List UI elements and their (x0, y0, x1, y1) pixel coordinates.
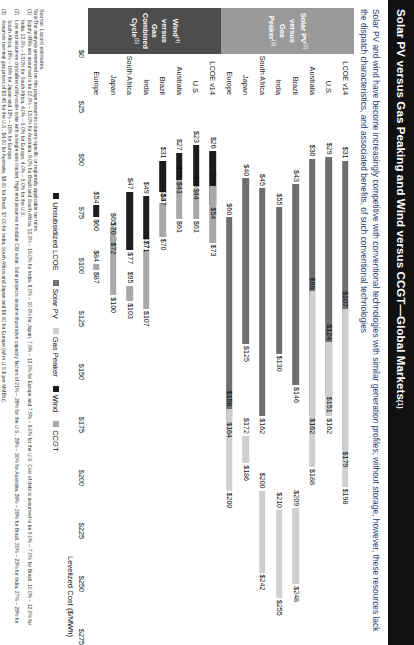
chart-row: Brazil$43$146$209$248 (287, 54, 304, 637)
legend-item: Solar PV (51, 280, 60, 319)
category-label: U.S. (324, 54, 333, 100)
chart-group: Wind(4)versusGas CombinedCycle(5)LCOE v1… (88, 8, 221, 637)
ccgt-bar (126, 286, 132, 302)
x-axis-tick: $200 (77, 470, 86, 486)
footnote-text: Low end assumes crystalline utility-scal… (7, 20, 20, 636)
gas-peaker-bar (292, 508, 298, 584)
value-label-low: $26 (209, 137, 217, 149)
chart-row: South Africa$47$77$95$103 (121, 54, 138, 637)
ccgt-bar (110, 227, 116, 295)
x-axis-tick: $100 (77, 258, 86, 274)
category-label: Japan (241, 54, 250, 100)
legend-item: Wind (51, 386, 60, 412)
wind-bar (93, 205, 99, 217)
value-label-low: $55 (275, 194, 283, 206)
value-label-low: $54 (92, 192, 100, 204)
value-label-conv-high: $73 (209, 245, 217, 257)
value-label-conv-low: $98 (308, 278, 316, 290)
x-axis-tick: $175 (77, 417, 86, 433)
value-label-conv-low: $200 (258, 473, 266, 489)
value-label-conv-low: $107 (341, 291, 349, 307)
value-label-conv-high: $242 (258, 575, 266, 591)
value-label-high: $44 (192, 188, 200, 200)
x-axis-tick: $275 (77, 629, 86, 645)
chart-row: LCOE v14$26$54$44$73 (204, 54, 221, 637)
value-label-low: $29 (325, 143, 333, 155)
value-label-conv-high: $87 (92, 272, 100, 284)
value-label-low: $45 (258, 174, 266, 186)
bar-track: $40$125$172$186 (237, 100, 254, 637)
slide-title-bar: Solar PV versus Gas Peaking and Wind ver… (388, 0, 414, 645)
legend-item: CCGT (51, 421, 60, 452)
value-label-low: $60 (225, 203, 233, 215)
bar-track: $31$47$53$70 (155, 100, 172, 637)
group-label-line: Gas Combined (140, 8, 160, 54)
chart-row: Brazil$31$47$53$70 (155, 54, 172, 637)
chart-row: Europe$54$60$84$87 (88, 54, 105, 637)
value-label-conv-low: $84 (92, 250, 100, 262)
legend-label: Wind (51, 395, 60, 412)
chart-legend: Unsubsidized LCOESolar PVGas PeakerWindC… (51, 8, 60, 637)
bar-track: $29$151$124$162 (320, 100, 337, 637)
category-label: India (274, 54, 283, 100)
legend-swatch-icon (53, 328, 59, 334)
x-axis-tick: $0 (77, 50, 86, 58)
value-label-low: $30 (308, 145, 316, 157)
category-label: Australia (308, 54, 317, 100)
x-axis-tick: $150 (77, 364, 86, 380)
x-axis-tick: $250 (77, 576, 86, 592)
chart-row: Japan$40$125$172$186 (237, 54, 254, 637)
chart-row: South Africa$45$162$200$242 (254, 54, 271, 637)
group-label-line: Solar PV(2) (297, 8, 308, 54)
footnote-text: Assumes nominal gas prices of $3.45 for … (0, 20, 7, 636)
solar-bar (243, 178, 249, 344)
x-axis-tick: $225 (77, 523, 86, 539)
value-label-conv-high: $198 (341, 489, 349, 505)
group-label-solar-pv: Solar PV(2)versusGas Peaker(3) (221, 8, 354, 54)
footnote-marker: (2) (7, 9, 20, 20)
legend-swatch-icon (53, 386, 59, 392)
gas-peaker-bar (276, 510, 282, 598)
value-label-conv-high: $255 (275, 600, 283, 616)
solar-bar (259, 188, 265, 416)
x-axis-tick: $25 (77, 101, 86, 113)
legend-label: Solar PV (51, 289, 60, 319)
x-axis-tick: $50 (77, 154, 86, 166)
chart-row: Europe$60$164$158$200 (221, 54, 238, 637)
group-label-line: Gas Peaker(3) (266, 8, 287, 54)
footnote: (1)Equity IRRs are assumed to be 12.0% –… (20, 9, 33, 636)
value-label-conv-high: $248 (292, 586, 300, 602)
value-label-low: $31 (341, 147, 349, 159)
chart-row: U.S.$23$44$46$61 (188, 54, 205, 637)
value-label-low: $27 (175, 139, 183, 151)
group-label-line: versus (287, 8, 297, 54)
gas-peaker-bar (259, 491, 265, 573)
chart-group: Solar PV(2)versusGas Peaker(3)LCOE v14$3… (221, 8, 354, 637)
value-label-low: $23 (192, 131, 200, 143)
page-title-footnote-ref: (1) (398, 400, 405, 409)
value-label-conv-low: $53 (159, 190, 167, 202)
chart-row: India$55$130$210$255 (271, 54, 288, 637)
value-label-conv-low: $210 (275, 492, 283, 508)
value-label-high: $60 (92, 219, 100, 231)
wind-bar (143, 196, 149, 239)
category-label: U.S. (191, 54, 200, 100)
group-label-wind: Wind(4)versusGas CombinedCycle(5) (88, 8, 221, 54)
chart-groups: Solar PV(2)versusGas Peaker(3)LCOE v14$3… (88, 8, 354, 637)
footnote: (3)Assumes nominal gas prices of $3.45 f… (0, 9, 7, 636)
legend-swatch-icon (53, 421, 59, 427)
value-label-conv-high: $200 (225, 493, 233, 509)
gas-peaker-bar (226, 409, 232, 491)
value-label-conv-low: $44 (209, 172, 217, 184)
legend-label: Gas Peaker (51, 337, 60, 377)
bar-track: $27$41$41$61 (171, 100, 188, 637)
bar-track: $45$162$200$242 (254, 100, 271, 637)
notes-lead: The analysis presented on this page assu… (33, 20, 40, 636)
group-rows: LCOE v14$26$54$44$73U.S.$23$44$46$61Aust… (88, 54, 221, 637)
category-label: Australia (175, 54, 184, 100)
bar-track: $47$77$95$103 (121, 100, 138, 637)
value-label-conv-low: $124 (325, 324, 333, 340)
bar-track: $55$130$210$255 (271, 100, 288, 637)
category-label: LCOE v14 (341, 54, 350, 100)
value-label-high: $146 (292, 387, 300, 403)
